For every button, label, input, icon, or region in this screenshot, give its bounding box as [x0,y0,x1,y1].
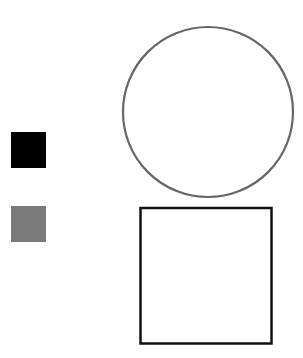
circle-shape[interactable] [123,27,293,197]
square-shape[interactable] [141,208,272,344]
canvas [0,0,303,358]
